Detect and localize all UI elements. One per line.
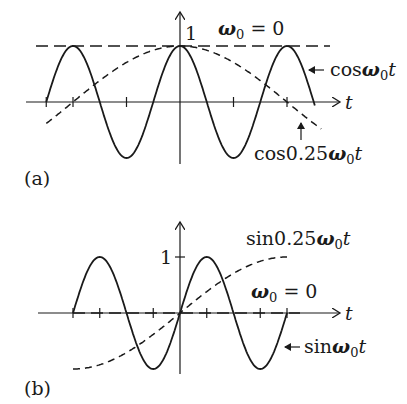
panel-b-caption: (b) bbox=[24, 377, 51, 399]
panel-a: 1 ω0 = 0 t cosω0t cos0.25ω0t (a) bbox=[24, 12, 396, 189]
panel-a-caption: (a) bbox=[24, 167, 50, 189]
panel-b: 1 ω0 = 0 t sin0.25ω0t sinω0t (b) bbox=[24, 222, 366, 399]
y-tick-label: 1 bbox=[185, 22, 197, 44]
figure-svg: 1 ω0 = 0 t cosω0t cos0.25ω0t (a) 1 ω0 = … bbox=[0, 0, 407, 404]
slow-curve-label: cos0.25ω0t bbox=[254, 142, 363, 167]
omega-zero-label: ω0 = 0 bbox=[218, 17, 284, 42]
omega-zero-label: ω0 = 0 bbox=[251, 280, 317, 305]
t-axis-label: t bbox=[345, 302, 353, 324]
slow-curve-label: sin0.25ω0t bbox=[246, 227, 351, 252]
fast-curve-label: cosω0t bbox=[330, 58, 396, 83]
t-axis-label: t bbox=[345, 91, 353, 113]
figure: 1 ω0 = 0 t cosω0t cos0.25ω0t (a) 1 ω0 = … bbox=[0, 0, 407, 404]
fast-curve-label: sinω0t bbox=[304, 335, 366, 360]
y-tick-label: 1 bbox=[160, 246, 172, 268]
slow-dashed-curve bbox=[46, 46, 321, 129]
